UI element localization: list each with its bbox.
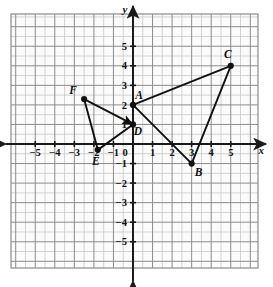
y-tick-label: −2 bbox=[116, 178, 127, 189]
point-e bbox=[95, 147, 101, 153]
x-tick-label: −1 bbox=[108, 147, 119, 158]
x-tick-label: −5 bbox=[30, 147, 41, 158]
x-tick-label: 5 bbox=[228, 147, 233, 158]
y-axis-label: y bbox=[121, 3, 128, 15]
y-tick-label: 3 bbox=[122, 80, 127, 91]
y-tick-label: −5 bbox=[116, 236, 127, 247]
coordinate-plane-figure: xy−5−4−3−2−101234554321−1−2−3−4−5ABCDEF bbox=[0, 0, 273, 287]
x-tick-label: 4 bbox=[209, 147, 215, 158]
point-label-d: D bbox=[133, 125, 143, 137]
point-label-c: C bbox=[224, 48, 232, 60]
coordinate-plane-svg: xy−5−4−3−2−101234554321−1−2−3−4−5ABCDEF bbox=[0, 0, 273, 287]
x-tick-label: 3 bbox=[189, 147, 194, 158]
y-tick-label: 5 bbox=[122, 41, 127, 52]
y-tick-label: 2 bbox=[122, 100, 127, 111]
x-tick-label: −3 bbox=[69, 147, 80, 158]
point-label-a: A bbox=[134, 89, 143, 101]
y-tick-label: −3 bbox=[116, 197, 127, 208]
point-f bbox=[81, 96, 87, 102]
x-tick-label: 1 bbox=[150, 147, 155, 158]
x-tick-label: −4 bbox=[49, 147, 61, 158]
point-c bbox=[228, 63, 234, 69]
y-tick-label: −1 bbox=[116, 158, 127, 169]
point-b bbox=[189, 160, 195, 166]
x-axis-label: x bbox=[258, 144, 265, 156]
point-a bbox=[130, 102, 136, 108]
y-tick-label: 4 bbox=[122, 60, 128, 71]
point-label-b: B bbox=[194, 166, 203, 178]
point-label-e: E bbox=[91, 155, 100, 167]
point-label-f: F bbox=[68, 84, 77, 96]
x-tick-label: 0 bbox=[122, 147, 127, 158]
x-tick-label: 2 bbox=[169, 147, 174, 158]
y-tick-label: −4 bbox=[116, 217, 128, 228]
